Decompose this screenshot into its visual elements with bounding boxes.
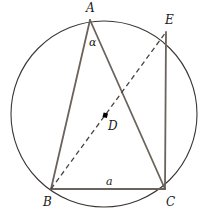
side-length-label-a: a: [106, 176, 113, 187]
point-label-a: A: [86, 2, 95, 14]
point-label-e: E: [165, 14, 174, 26]
segment-ab: [51, 20, 90, 189]
segment-ec: [165, 32, 166, 189]
point-label-b: B: [43, 196, 52, 208]
segment-ac: [90, 20, 165, 189]
point-label-d: D: [108, 120, 118, 132]
geometry-figure: A B C D E α a: [0, 0, 210, 214]
point-label-c: C: [166, 196, 175, 208]
angle-label-alpha: α: [89, 37, 96, 48]
geometry-canvas: [0, 0, 210, 214]
